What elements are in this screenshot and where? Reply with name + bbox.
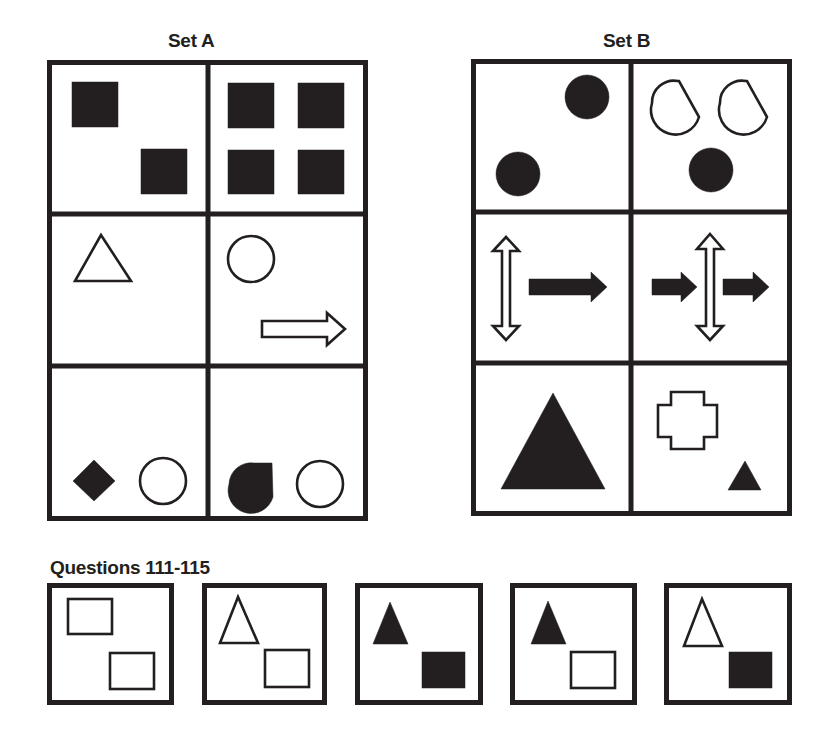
- filled-triangle-icon: [501, 393, 605, 489]
- filled-half-disc-icon: [228, 463, 273, 514]
- filled-diamond-icon: [73, 460, 115, 501]
- question-114-option[interactable]: [513, 586, 635, 703]
- outline-circle-icon: [140, 458, 186, 504]
- filled-circle-icon: [565, 75, 609, 119]
- set-a-cell-1-2: [228, 83, 344, 194]
- puzzle-canvas: [0, 0, 840, 742]
- set-b-cell-1-1: [496, 75, 609, 196]
- outline-rectangle-icon: [571, 652, 615, 688]
- set-a-cell-3-2: [228, 461, 343, 513]
- outline-half-disc-icon: [651, 81, 699, 135]
- filled-circle-icon: [496, 152, 540, 196]
- questions-row: [50, 586, 790, 703]
- filled-right-arrow-icon: [723, 272, 769, 302]
- filled-right-arrow-icon: [652, 272, 697, 302]
- set-a-cell-3-1: [73, 458, 186, 504]
- outline-right-arrow-icon: [262, 313, 345, 345]
- filled-right-arrow-icon: [529, 272, 607, 302]
- filled-square-icon: [298, 83, 344, 128]
- outline-circle-icon: [228, 236, 274, 282]
- set-b-cell-1-2: [651, 81, 767, 192]
- set-a-cell-1-1: [72, 82, 187, 194]
- set-b-cell-3-1: [501, 393, 605, 489]
- filled-circle-icon: [689, 148, 733, 192]
- set-a-cell-2-1: [75, 235, 131, 281]
- outline-cross-icon: [658, 392, 717, 449]
- outline-half-disc-icon: [719, 81, 767, 135]
- outline-circle-icon: [297, 461, 343, 507]
- set-b-cell-2-2: [652, 234, 769, 340]
- outline-vertical-double-arrow-icon: [493, 237, 519, 340]
- filled-square-icon: [72, 82, 118, 127]
- filled-square-icon: [141, 149, 187, 194]
- outline-vertical-double-arrow-icon: [697, 234, 723, 340]
- filled-small-triangle-icon: [728, 461, 761, 490]
- outline-triangle-icon: [75, 235, 131, 281]
- set-b-cell-2-1: [493, 237, 607, 340]
- outline-rectangle-icon: [265, 650, 309, 687]
- question-115-option[interactable]: [667, 586, 790, 703]
- set-a-cell-2-2: [228, 236, 345, 345]
- set-a-grid: [47, 60, 368, 521]
- set-b-grid: [471, 59, 792, 516]
- set-b-cell-3-2: [658, 392, 761, 490]
- filled-square-icon: [298, 150, 344, 194]
- outline-rectangle-icon: [68, 599, 112, 634]
- question-112-option[interactable]: [205, 586, 325, 703]
- question-113-option[interactable]: [358, 586, 481, 703]
- filled-rectangle-icon: [729, 652, 772, 688]
- filled-square-icon: [228, 83, 274, 128]
- question-111-option[interactable]: [50, 586, 172, 703]
- outline-rectangle-icon: [110, 653, 154, 689]
- filled-square-icon: [228, 150, 274, 194]
- filled-rectangle-icon: [422, 652, 465, 688]
